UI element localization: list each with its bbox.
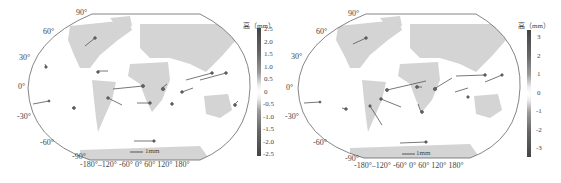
land-masses [68,16,236,162]
land-masses [336,16,506,160]
lon-labels: -180°–120° -60° 0° 60° 120° 180° [354,161,464,170]
left-map-plot [0,0,280,183]
colorbar-title: 高（mm） [518,20,550,30]
right-map-panel: 90° 60° 30° 0° -30° -60° -90° -180°–120°… [280,0,561,183]
lat-label-neg60: -60° [40,138,54,147]
colorbar [257,28,261,156]
lat-label-30: 30° [19,53,30,62]
lat-label-30: 30° [291,52,302,61]
lat-label-0: 0° [18,82,25,91]
left-map-panel: 90° 60° 30° 0° -30° -60° -90° -180°–120°… [0,0,280,183]
colorbar-ticks: 2.5 2.0 1.5 1.0 0.5 0 -0.5 -1.0 -1.5 -2.… [264,25,280,157]
lon-labels: -180°–120° -60° 0° 60° 120° 180° [80,160,190,169]
lat-label-90: 90° [348,9,359,18]
scale-bar-label: 1mm [145,147,159,155]
lat-label-0: 0° [286,83,293,92]
lat-label-90: 90° [76,8,87,17]
lat-label-neg30: -30° [17,112,31,121]
lat-label-60: 60° [316,27,327,36]
colorbar [527,30,531,157]
lat-label-neg30: -30° [285,112,299,121]
scale-bar-label: 1mm [416,149,430,157]
lat-label-60: 60° [43,27,54,36]
lat-label-neg60: -60° [313,138,327,147]
colorbar-ticks: 3 2 1 0 -1 -2 -3 [537,33,553,153]
